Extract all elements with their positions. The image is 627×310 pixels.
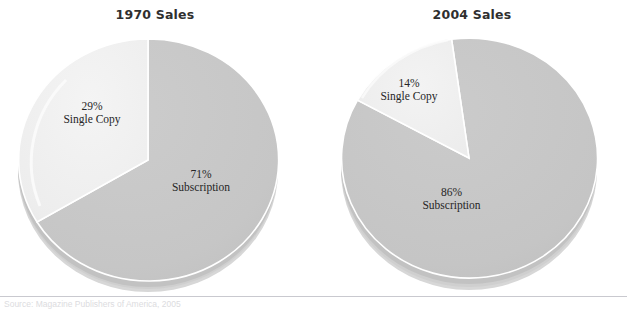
pie-1970 — [0, 0, 310, 310]
pie-2004-svg — [317, 0, 627, 310]
footer-source-note: Source: Magazine Publishers of America, … — [4, 299, 334, 310]
pie-1970-svg — [0, 0, 310, 310]
pie-chart-figure: 1970 Sales — [0, 0, 627, 310]
footer-divider — [0, 296, 627, 297]
chart-panel-1970: 1970 Sales — [0, 0, 310, 310]
pie-2004 — [317, 0, 627, 310]
chart-panel-2004: 2004 Sales — [317, 0, 627, 310]
